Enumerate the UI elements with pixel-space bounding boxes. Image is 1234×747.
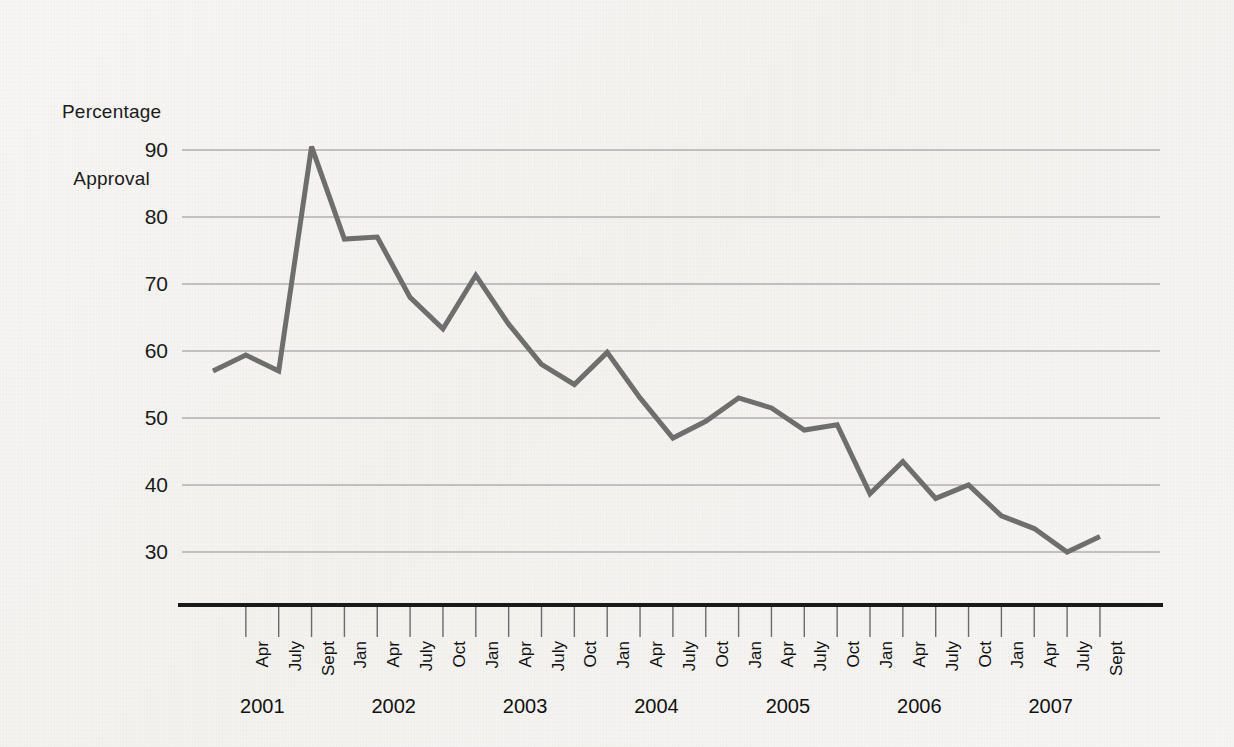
x-tick-label: Jan — [1008, 641, 1028, 668]
x-tick-label: Oct — [713, 641, 733, 667]
x-tick-label: July — [417, 641, 437, 671]
x-tick-label: Apr — [1041, 641, 1061, 667]
x-tick-label: Apr — [384, 641, 404, 667]
x-tick-label: Oct — [844, 641, 864, 667]
x-tick-label: July — [811, 641, 831, 671]
year-label: 2002 — [371, 695, 416, 718]
y-tick-label: 60 — [108, 339, 168, 363]
year-label: 2003 — [503, 695, 548, 718]
x-tick-label: Sept — [319, 641, 339, 676]
y-tick-label: 50 — [108, 406, 168, 430]
approval-data-line — [213, 147, 1100, 552]
x-tick-label: July — [549, 641, 569, 671]
x-tick-label: Jan — [483, 641, 503, 668]
x-tick-label: Apr — [778, 641, 798, 667]
year-label: 2006 — [897, 695, 942, 718]
x-tick-label: July — [1074, 641, 1094, 671]
approval-line-chart — [0, 0, 1234, 747]
x-tick-label: Jan — [614, 641, 634, 668]
gridlines — [182, 150, 1160, 552]
x-tick-label: Oct — [450, 641, 470, 667]
year-label: 2004 — [634, 695, 679, 718]
year-label: 2005 — [766, 695, 811, 718]
year-label: 2007 — [1028, 695, 1073, 718]
x-axis-ticks — [246, 607, 1100, 637]
x-tick-label: July — [680, 641, 700, 671]
x-tick-label: Apr — [647, 641, 667, 667]
x-tick-label: Apr — [910, 641, 930, 667]
x-tick-label: July — [286, 641, 306, 671]
y-tick-label: 40 — [108, 473, 168, 497]
chart-figure: Percentage Approval 30405060708090 AprJu… — [0, 0, 1234, 747]
x-tick-label: Apr — [516, 641, 536, 667]
x-tick-label: July — [943, 641, 963, 671]
y-tick-label: 80 — [108, 205, 168, 229]
year-label: 2001 — [240, 695, 285, 718]
y-tick-label: 90 — [108, 138, 168, 162]
x-tick-label: Jan — [351, 641, 371, 668]
x-tick-label: Apr — [253, 641, 273, 667]
x-tick-label: Oct — [581, 641, 601, 667]
x-tick-label: Jan — [746, 641, 766, 668]
y-tick-label: 70 — [108, 272, 168, 296]
y-tick-label: 30 — [108, 540, 168, 564]
x-tick-label: Oct — [976, 641, 996, 667]
x-tick-label: Sept — [1107, 641, 1127, 676]
x-tick-label: Jan — [877, 641, 897, 668]
